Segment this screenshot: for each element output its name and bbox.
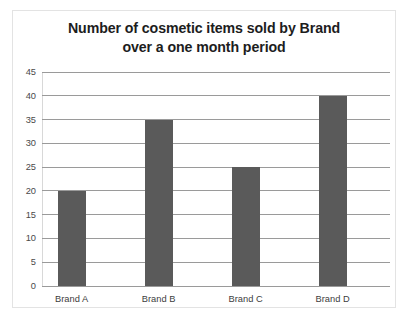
x-tick-label-brand-c: Brand C (229, 294, 263, 304)
y-tick-label-15: 15 (26, 210, 36, 220)
x-tick-label-brand-d: Brand D (316, 294, 350, 304)
bar-brand-d[interactable] (319, 96, 347, 286)
y-axis-line (42, 72, 43, 286)
plot-area: 051015202530354045 Brand ABrand BBrand C… (42, 72, 390, 286)
y-tick-label-25: 25 (26, 162, 36, 172)
y-tick-label-45: 45 (26, 67, 36, 77)
x-tick-label-brand-b: Brand B (142, 294, 176, 304)
y-tick-label-35: 35 (26, 115, 36, 125)
chart-title-line-2: over a one month period (13, 38, 395, 57)
chart-container: Number of cosmetic items sold by Brand o… (12, 10, 396, 308)
y-tick-label-20: 20 (26, 186, 36, 196)
bar-brand-b[interactable] (145, 120, 173, 286)
y-tick-label-10: 10 (26, 233, 36, 243)
y-tick-label-30: 30 (26, 138, 36, 148)
chart-title-line-1: Number of cosmetic items sold by Brand (13, 19, 395, 38)
chart-title: Number of cosmetic items sold by Brand o… (13, 19, 395, 56)
y-tick-label-5: 5 (31, 257, 36, 267)
gridline-45 (42, 72, 390, 73)
bar-brand-a[interactable] (58, 191, 86, 286)
bar-brand-c[interactable] (232, 167, 260, 286)
x-tick-label-brand-a: Brand A (55, 294, 88, 304)
y-tick-label-0: 0 (31, 281, 36, 291)
y-tick-label-40: 40 (26, 91, 36, 101)
